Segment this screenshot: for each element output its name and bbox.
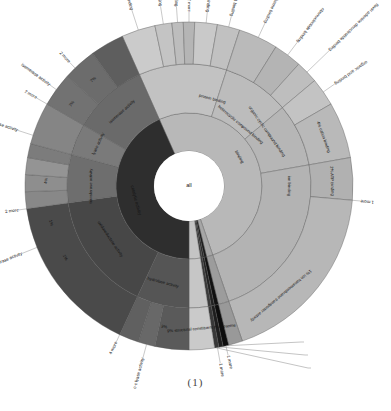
leader-line — [18, 130, 33, 135]
outer-label: ribonucleotide binding — [295, 7, 325, 45]
segment-label: transferase activity — [88, 168, 93, 204]
outer-label: 2 more — [5, 207, 20, 214]
leader-line — [229, 16, 232, 27]
leader-line — [161, 6, 164, 24]
label-unfolded-protein: unfolded protein binding — [115, 0, 134, 11]
leader-line — [50, 85, 56, 90]
segment-label: 2% ATP binding — [329, 166, 335, 196]
leader-line — [307, 51, 329, 73]
leader-line — [22, 247, 37, 253]
leader-line — [19, 209, 27, 210]
leader-line — [352, 200, 360, 201]
outer-label: RNA binding — [229, 0, 240, 17]
outer-label: DNA binding — [205, 0, 213, 13]
outer-label: heme binding — [263, 0, 279, 25]
leader-line — [206, 12, 207, 23]
leader-line — [132, 10, 138, 30]
leader-line — [70, 62, 76, 68]
center-label: all — [186, 182, 192, 188]
sunburst-chart: allcatalytic activitybindingprotein bind… — [0, 0, 391, 411]
outer-label: 1 more — [360, 199, 375, 205]
outer-label: organic acid binding — [333, 60, 368, 87]
outer-label: Hsp70 protein binding — [152, 0, 164, 7]
leader-line — [37, 98, 47, 104]
outer-label: carbon-oxygen lyase activity — [0, 111, 19, 133]
outer-label: methyltransferase activity — [0, 250, 24, 273]
leader-line — [116, 335, 119, 342]
leader-line — [176, 6, 177, 22]
outer-label: 2 more — [24, 89, 39, 100]
leader-line — [226, 346, 228, 356]
outer-label: isomerase activity — [20, 62, 52, 87]
legend-leader-line — [220, 347, 308, 355]
leader-line — [258, 23, 265, 38]
outer-label: 2 more — [58, 50, 71, 64]
outer-label: chaperone binding — [172, 0, 180, 7]
leader-line — [323, 84, 334, 92]
sunburst-segment[interactable] — [183, 22, 194, 64]
outer-label: 1 more — [226, 355, 234, 370]
outer-label: 4 more — [108, 340, 119, 355]
figure-caption: (1) — [0, 376, 391, 388]
outer-label: flavin adenine dinucleotide binding — [327, 2, 379, 53]
segment-label: ion binding — [287, 176, 292, 197]
outer-label: 2 more — [187, 0, 192, 13]
leader-line — [288, 42, 298, 55]
leader-line — [217, 348, 220, 364]
segment-label: 4% — [43, 178, 48, 184]
leader-line — [143, 344, 147, 358]
